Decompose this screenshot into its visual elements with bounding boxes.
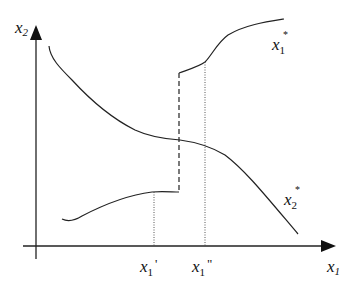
x-axis-label: x1: [326, 257, 340, 277]
curve-label-x1-star: x1*: [271, 29, 288, 56]
curve-x1-star: [179, 19, 284, 73]
y-axis-label: x2: [14, 18, 29, 38]
tick-label-x1-double-prime: x1": [191, 256, 212, 278]
curve-x2-star: [49, 46, 298, 234]
y-axis-arrow-icon: [30, 25, 42, 40]
diagram-canvas: x2 x1 x1* x2* x1' x1": [0, 0, 360, 288]
x-axis-arrow-icon: [321, 240, 336, 252]
curve-label-x2-star: x2*: [283, 184, 300, 211]
curve-lower-branch: [62, 192, 179, 221]
tick-label-x1-prime: x1': [139, 256, 157, 278]
